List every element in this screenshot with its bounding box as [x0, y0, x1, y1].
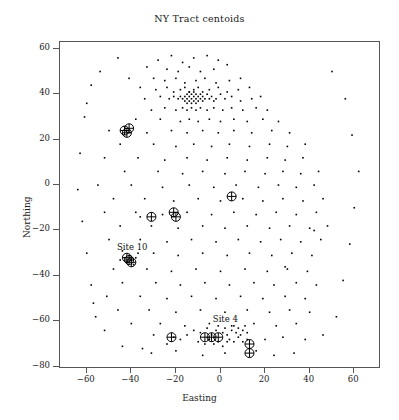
- y-tick-label: −60: [22, 314, 50, 324]
- y-tick-mark: [53, 48, 59, 49]
- x-tick-label: 0: [200, 374, 240, 384]
- x-tick-label: 40: [289, 374, 329, 384]
- x-tick-mark: [175, 368, 176, 373]
- x-tick-mark: [309, 368, 310, 373]
- y-tick-mark: [53, 320, 59, 321]
- x-tick-label: −40: [110, 374, 150, 384]
- site-label: Site 4: [213, 314, 238, 324]
- y-tick-label: 60: [22, 42, 50, 52]
- x-tick-label: −60: [66, 374, 106, 384]
- chart-title: NY Tract centoids: [0, 13, 399, 24]
- chart-figure: NY Tract centoids −80−60−40−200204060 −6…: [0, 0, 399, 420]
- x-tick-mark: [220, 368, 221, 373]
- x-tick-label: 20: [244, 374, 284, 384]
- x-tick-mark: [86, 368, 87, 373]
- x-tick-label: 60: [333, 374, 373, 384]
- y-tick-mark: [53, 366, 59, 367]
- y-tick-label: −80: [22, 360, 50, 370]
- y-tick-mark: [53, 184, 59, 185]
- site-label: Site 10: [117, 242, 148, 252]
- y-tick-mark: [53, 139, 59, 140]
- y-tick-mark: [53, 275, 59, 276]
- x-tick-mark: [353, 368, 354, 373]
- y-tick-mark: [53, 229, 59, 230]
- y-tick-mark: [53, 93, 59, 94]
- y-tick-label: 40: [22, 87, 50, 97]
- y-tick-label: −40: [22, 269, 50, 279]
- y-tick-label: 20: [22, 133, 50, 143]
- x-axis-title: Easting: [0, 393, 399, 403]
- y-tick-label: 0: [22, 178, 50, 188]
- x-tick-mark: [264, 368, 265, 373]
- y-axis-title: Northing: [22, 197, 32, 238]
- x-tick-mark: [130, 368, 131, 373]
- x-tick-label: −20: [155, 374, 195, 384]
